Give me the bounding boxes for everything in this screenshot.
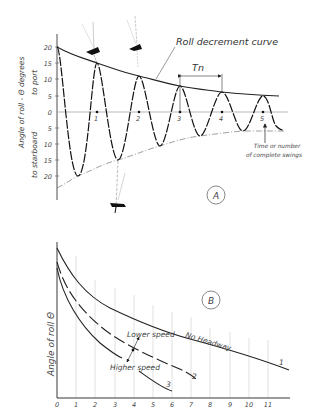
svg-text:2: 2 [93,401,97,408]
a-y-axis-label-starboard: to starboard [30,132,39,178]
higher-speed-label: Higher speed [110,363,160,372]
curve-1-no-headway [57,248,289,370]
swing-marker-label: 4 [219,115,223,123]
a-y-tick-label: 0 [48,109,52,117]
roll-decrement-annotation: Roll decrement curve [176,36,278,47]
annotation-leader [156,47,175,79]
time-label-line1: Time or number [254,143,301,149]
ship-icon-2 [127,16,142,67]
a-y-tick-label: 20 [44,44,52,52]
label-a: A [212,191,219,201]
roll-diagram: 20 15 10 5 0 5 10 15 20 Angle of roll - … [0,0,324,408]
swing-markers: 1 2 3 4 5 [94,111,264,123]
label-b: B [208,296,214,306]
svg-text:5: 5 [151,401,155,408]
higher-speed-arrow [127,350,133,362]
a-y-tick-label: 5 [48,125,52,133]
a-y-tick-label: 15 [44,60,52,68]
swing-marker-label: 2 [136,115,140,123]
svg-text:3: 3 [113,401,117,408]
curve-3-number: 3 [166,380,171,389]
b-grid-lines [76,256,268,398]
b-y-axis-label: Angle of roll Θ [46,312,56,377]
swing-marker-label: 5 [260,115,264,123]
diagram-b: 0 1 2 3 4 5 6 7 8 9 10 11 Angle of roll … [46,242,290,408]
lower-envelope-curve [57,131,285,188]
svg-text:10: 10 [245,401,253,408]
a-y-tick-label: 15 [44,157,52,165]
svg-text:0: 0 [55,401,59,408]
ship-icon-1 [82,22,100,63]
swing-marker-label: 3 [177,115,181,123]
a-y-axis-label: Angle of roll - Θ degrees [17,57,26,149]
svg-text:11: 11 [264,401,272,408]
svg-text:7: 7 [189,401,194,408]
a-y-tick-label: 10 [44,76,52,84]
diagram-a: 20 15 10 5 0 5 10 15 20 Angle of roll - … [17,16,302,213]
ship-icon-3 [110,161,126,213]
swing-marker-label: 1 [94,115,98,123]
a-y-tick-label: 10 [44,141,52,149]
svg-text:1: 1 [74,401,78,408]
lower-speed-label: Lower speed [127,330,175,339]
a-y-axis-label-port: to port [30,69,39,95]
curve-2-number: 2 [192,372,197,381]
a-y-tick-label: 5 [48,93,52,101]
no-headway-label: No Headway [184,330,232,353]
speed-pivot-dot [132,349,135,352]
a-y-tick-label: 20 [44,173,52,181]
svg-text:9: 9 [228,401,232,408]
svg-text:6: 6 [170,401,174,408]
tn-label: Tn [192,62,204,73]
b-x-ticks: 0 1 2 3 4 5 6 7 8 9 10 11 [55,401,272,408]
curve-1-number: 1 [279,358,284,367]
roll-decrement-curve [57,47,279,96]
svg-text:4: 4 [132,401,136,408]
time-label-line2: of complete swings [246,152,302,159]
curve-2-lower-speed [57,262,196,379]
svg-text:8: 8 [208,401,212,408]
